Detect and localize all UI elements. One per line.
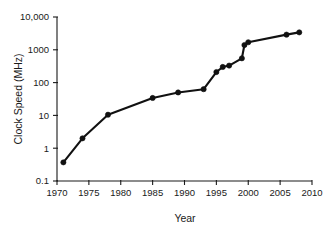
y-tick-label: 100: [33, 77, 49, 88]
data-point: [201, 87, 206, 92]
data-point: [246, 40, 251, 45]
x-tick-label: 2005: [270, 187, 291, 198]
y-tick-label: 10,000: [20, 11, 49, 22]
x-tick-label: 1985: [142, 187, 163, 198]
y-axis-tick-labels: 0.1110100100010,000: [20, 11, 49, 186]
y-axis-title: Clock Speed (MHz): [12, 53, 24, 144]
data-point: [105, 112, 110, 117]
axis-spines: [57, 17, 312, 181]
data-point: [220, 64, 225, 69]
y-tick-label: 0.1: [36, 175, 49, 186]
x-tick-label: 1970: [46, 187, 67, 198]
data-point: [227, 63, 232, 68]
x-tick-label: 1980: [110, 187, 131, 198]
data-point: [80, 136, 85, 141]
y-tick-label: 10: [38, 110, 49, 121]
x-tick-label: 2010: [301, 187, 322, 198]
data-point: [214, 69, 219, 74]
y-tick-label: 1000: [28, 44, 49, 55]
data-point: [297, 30, 302, 35]
x-tick-label: 1995: [206, 187, 227, 198]
data-point: [176, 90, 181, 95]
x-axis-tick-labels: 197019751980198519901995200020052010: [46, 187, 322, 198]
x-tick-label: 1990: [174, 187, 195, 198]
data-point: [239, 56, 244, 61]
x-tick-label: 1975: [78, 187, 99, 198]
x-axis-title: Year: [174, 212, 196, 224]
data-point: [150, 95, 155, 100]
chart-figure: 0.1110100100010,000 19701975198019851990…: [0, 0, 330, 230]
y-tick-label: 1: [44, 143, 49, 154]
clock-speed-line-chart: 0.1110100100010,000 19701975198019851990…: [0, 0, 330, 230]
x-tick-label: 2000: [238, 187, 259, 198]
data-series-markers: [61, 30, 302, 165]
data-point: [284, 32, 289, 37]
data-series-line: [63, 32, 299, 162]
data-point: [61, 160, 66, 165]
